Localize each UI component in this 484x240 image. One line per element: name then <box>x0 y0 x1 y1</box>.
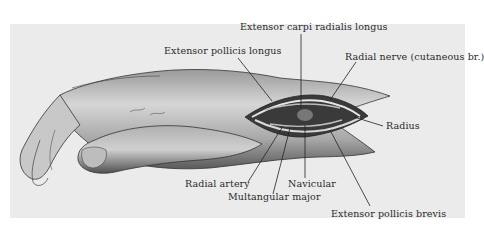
label-extensor-carpi-radialis-longus: Extensor carpi radialis longus <box>240 21 388 32</box>
label-extensor-pollicis-longus: Extensor pollicis longus <box>164 45 282 56</box>
label-extensor-pollicis-brevis: Extensor pollicis brevis <box>331 208 446 219</box>
label-radius: Radius <box>386 120 420 131</box>
label-radial-artery: Radial artery <box>185 178 250 189</box>
label-multangular-major: Multangular major <box>228 191 321 202</box>
label-navicular: Navicular <box>288 178 336 189</box>
label-radial-nerve: Radial nerve (cutaneous br.) <box>345 51 484 62</box>
